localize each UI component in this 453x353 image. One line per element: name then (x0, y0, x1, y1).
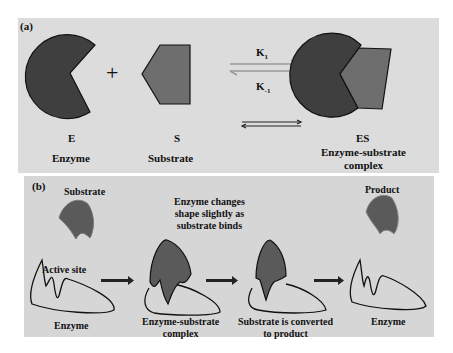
enzyme-substrate-blob-icon (150, 240, 191, 304)
enzyme-label-2: Enzyme (371, 316, 405, 327)
right-arrow-icon (206, 276, 238, 285)
substrate-shape-icon (142, 45, 190, 104)
converted-caption: Substrate is convertedto product (238, 316, 333, 340)
complex-caption-b: Enzyme-substratecomplex (142, 316, 219, 340)
shape-change-caption: Enzyme changesshape slightly assubstrate… (174, 196, 245, 232)
substrate-symbol: S (174, 132, 180, 144)
plus-sign: + (106, 60, 118, 86)
small-equilibrium-arrows-icon (242, 120, 301, 128)
converted-product-blob-icon (256, 240, 286, 300)
complex-symbol: ES (356, 132, 369, 144)
enzyme-outline-icon (350, 260, 426, 309)
substrate-caption: Substrate (148, 152, 193, 164)
panel-a: (a) + E S ES K1 K-1 Enzyme Substrate Enz… (18, 18, 439, 173)
enzyme-symbol: E (68, 132, 75, 144)
complex-caption: Enzyme-substratecomplex (321, 146, 406, 172)
enzyme-caption: Enzyme (52, 152, 90, 164)
enzyme-substrate-complex-icon (290, 33, 391, 117)
panel-a-label: (a) (20, 20, 33, 32)
product-label: Product (365, 184, 399, 195)
enzyme-shape-icon (25, 35, 95, 119)
product-blob-icon (366, 195, 398, 234)
right-arrow-icon (101, 276, 134, 285)
panel-b-label: (b) (32, 180, 45, 192)
substrate-blob-icon (59, 200, 94, 239)
k-forward: K1 (256, 46, 268, 61)
k-reverse: K-1 (256, 80, 270, 95)
enzyme-label-1: Enzyme (54, 320, 88, 331)
panel-b: (b) Substrate Active site Enzyme Enzyme … (24, 176, 434, 337)
right-arrow-icon (314, 276, 344, 285)
active-site-label: Active site (42, 264, 86, 275)
substrate-label: Substrate (64, 186, 105, 197)
